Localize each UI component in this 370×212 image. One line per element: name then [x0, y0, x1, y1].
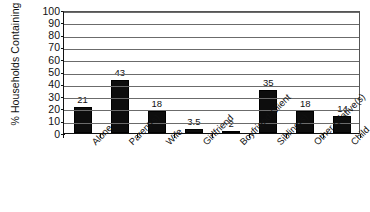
bar-value-label: 18 — [300, 99, 311, 109]
y-tick-label: 60 — [22, 55, 60, 65]
y-axis-tick-labels: 1009080706050403020100 — [22, 0, 60, 212]
y-tick-label: 30 — [22, 92, 60, 102]
bar-value-label: 18 — [152, 99, 163, 109]
gridline — [64, 61, 359, 62]
gridline — [64, 86, 359, 87]
gridline — [64, 24, 359, 25]
bar-slot: 21 — [64, 12, 101, 133]
y-tick-label: 40 — [22, 79, 60, 89]
y-tick-label: 0 — [22, 129, 60, 139]
bar-slot: 3.5 — [175, 12, 212, 133]
y-axis-title: % Households Containing — [9, 0, 21, 134]
y-tick-label: 70 — [22, 42, 60, 52]
bar-slot: 43 — [101, 12, 138, 133]
y-tick-label: 10 — [22, 116, 60, 126]
bars-layer: 2143183.52351814 — [64, 12, 359, 133]
bar — [111, 80, 129, 133]
y-tick-label: 50 — [22, 67, 60, 77]
gridline — [64, 98, 359, 99]
gridline — [64, 49, 359, 50]
y-tick-label: 80 — [22, 30, 60, 40]
plot-area: 2143183.52351814 — [63, 11, 360, 134]
gridline — [64, 74, 359, 75]
y-tick-label: 100 — [22, 6, 60, 16]
bar — [222, 131, 240, 133]
gridline — [64, 110, 359, 111]
bar — [185, 129, 203, 133]
gridline — [64, 37, 359, 38]
x-axis-category-labels: AloneParent(s)WifeGirlfriendBoyfriend-Cl… — [63, 140, 360, 212]
y-tick-label: 20 — [22, 104, 60, 114]
x-tick-mark — [63, 134, 64, 138]
bar-chart: % Households Containing 1009080706050403… — [0, 0, 370, 212]
gridline — [64, 12, 359, 13]
bar-value-label: 21 — [77, 95, 88, 105]
y-tick-label: 90 — [22, 18, 60, 28]
